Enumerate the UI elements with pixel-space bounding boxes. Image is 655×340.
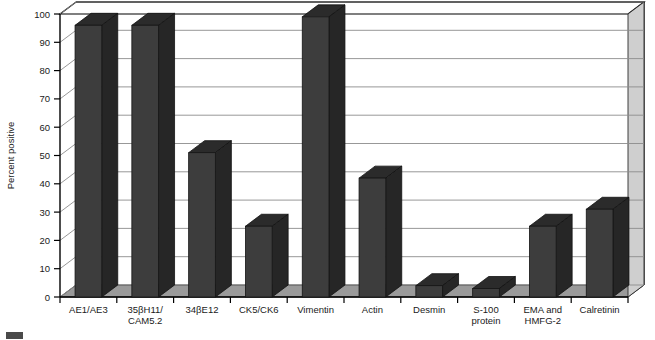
y-tick-label-50: 50 (39, 150, 50, 161)
bar-chart: 0102030405060708090100Percent positiveAE… (0, 0, 655, 340)
x-axis-label-0: AE1/AE3 (69, 304, 108, 315)
x-axis-label-6: Desmin (413, 304, 445, 315)
bar-side-8 (556, 214, 572, 297)
bar-4 (302, 5, 345, 297)
y-axis-title: Percent positive (5, 122, 16, 190)
gridline-depth-30 (60, 200, 76, 212)
x-axis-label-7: protein (471, 315, 500, 326)
bar-0 (75, 13, 118, 297)
x-axis-label-2: 34βE12 (186, 304, 219, 315)
bar-front-5 (359, 178, 386, 297)
bar-front-9 (586, 209, 613, 297)
y-tick-label-80: 80 (39, 65, 50, 76)
x-axis-label-9: Calretinin (580, 304, 620, 315)
bar-side-0 (102, 13, 118, 297)
bar-front-6 (416, 286, 443, 297)
bar-front-7 (473, 289, 500, 297)
bar-9 (586, 197, 629, 297)
gridline-depth-100 (60, 2, 76, 14)
bar-side-4 (329, 5, 345, 297)
bar-front-0 (75, 25, 102, 297)
chart-right-panel (628, 2, 644, 297)
bar-front-1 (132, 25, 159, 297)
y-tick-label-40: 40 (39, 178, 50, 189)
x-axis-label-8: EMA and (524, 304, 563, 315)
bar-8 (529, 214, 572, 297)
bar-side-1 (159, 13, 175, 297)
gridline-depth-40 (60, 172, 76, 184)
bar-side-2 (215, 141, 231, 297)
bar-front-2 (189, 153, 216, 297)
chart-back-wall-top (60, 2, 644, 14)
bar-3 (245, 214, 288, 297)
y-tick-label-90: 90 (39, 37, 50, 48)
y-tick-label-10: 10 (39, 263, 50, 274)
y-tick-label-70: 70 (39, 93, 50, 104)
bar-2 (189, 141, 232, 297)
gridline-depth-50 (60, 144, 76, 156)
x-axis-label-8: HMFG-2 (525, 315, 561, 326)
gridline-depth-10 (60, 257, 76, 269)
y-tick-label-20: 20 (39, 235, 50, 246)
bar-side-9 (613, 197, 629, 297)
y-tick-label-100: 100 (34, 9, 50, 20)
x-axis-label-4: Vimentin (297, 304, 334, 315)
bar-5 (359, 166, 402, 297)
bar-front-4 (302, 17, 329, 297)
bar-front-8 (529, 226, 556, 297)
caption-strip (0, 330, 655, 340)
gridline-depth-70 (60, 87, 76, 99)
x-axis-label-1: CAM5.2 (128, 315, 162, 326)
gridline-depth-80 (60, 59, 76, 71)
gridline-depth-20 (60, 228, 76, 240)
caption-marker-icon (6, 332, 23, 339)
x-axis-label-7: S-100 (473, 304, 498, 315)
x-axis-label-1: 35βH11/ (127, 304, 163, 315)
x-axis-label-5: Actin (362, 304, 383, 315)
bar-front-3 (245, 226, 272, 297)
y-tick-label-60: 60 (39, 122, 50, 133)
x-axis-label-3: CK5/CK6 (239, 304, 279, 315)
bar-side-5 (386, 166, 402, 297)
bar-side-3 (272, 214, 288, 297)
y-tick-label-0: 0 (45, 292, 50, 303)
y-tick-label-30: 30 (39, 207, 50, 218)
bar-1 (132, 13, 175, 297)
chart-canvas: 0102030405060708090100Percent positiveAE… (0, 0, 655, 340)
gridline-depth-60 (60, 115, 76, 127)
gridline-depth-90 (60, 30, 76, 42)
